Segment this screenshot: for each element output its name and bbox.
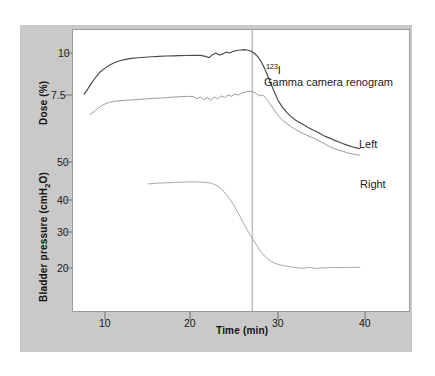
series-line-right <box>90 91 360 155</box>
annotation-study-type: Gamma camera renogram <box>264 76 393 88</box>
x-axis-label-text: Time (min) <box>216 325 268 336</box>
x-tick-30: 30 <box>272 317 284 329</box>
series-line-bladder-pressure <box>148 182 359 269</box>
y-axis-label-pressure-tail: O) <box>38 172 49 184</box>
x-tick-40: 40 <box>359 317 371 329</box>
y-tick-pressure-30: 30 <box>57 226 69 238</box>
curve-label-right: Right <box>360 178 386 190</box>
y-tick-pressure-50-text: 50 <box>57 156 69 168</box>
x-tick-20-text: 20 <box>184 317 196 329</box>
annotation-isotope: 123I <box>266 62 281 76</box>
y-axis-label-pressure-sub: 2 <box>43 183 52 187</box>
x-tick-20: 20 <box>184 317 196 329</box>
y-axis-label-dose-text: Dose (%) <box>38 81 49 125</box>
y-tick-pressure-20-text: 20 <box>57 262 69 274</box>
x-tick-10-text: 10 <box>99 317 111 329</box>
y-tick-dose-10: 10 <box>58 47 70 59</box>
curve-label-left: Left <box>359 138 377 150</box>
y-tick-pressure-20: 20 <box>57 262 69 274</box>
y-axis-label-dose: Dose (%) <box>38 81 49 125</box>
figure-container: Dose (%) Bladder pressure (cmH2O) Time (… <box>0 0 435 376</box>
y-axis-label-pressure: Bladder pressure (cmH2O) <box>38 172 52 302</box>
y-tick-pressure-50: 50 <box>57 156 69 168</box>
annotation-isotope-mass: 123 <box>266 62 278 71</box>
plot-svg <box>73 30 409 311</box>
y-tick-pressure-40: 40 <box>57 194 69 206</box>
x-axis-label: Time (min) <box>216 325 268 336</box>
y-axis-label-pressure-text: Bladder pressure (cmH <box>38 188 49 302</box>
x-tick-40-text: 40 <box>359 317 371 329</box>
x-tick-30-text: 30 <box>272 317 284 329</box>
plot-area <box>72 29 410 312</box>
annotation-isotope-symbol: I <box>278 64 281 76</box>
y-tick-dose-7-5: 7.5 <box>51 89 66 101</box>
x-tick-10: 10 <box>99 317 111 329</box>
series-line-left <box>84 50 360 149</box>
y-tick-dose-7-5-text: 7.5 <box>51 89 66 101</box>
y-tick-pressure-30-text: 30 <box>57 226 69 238</box>
y-tick-pressure-40-text: 40 <box>57 194 69 206</box>
y-tick-dose-10-text: 10 <box>58 47 70 59</box>
